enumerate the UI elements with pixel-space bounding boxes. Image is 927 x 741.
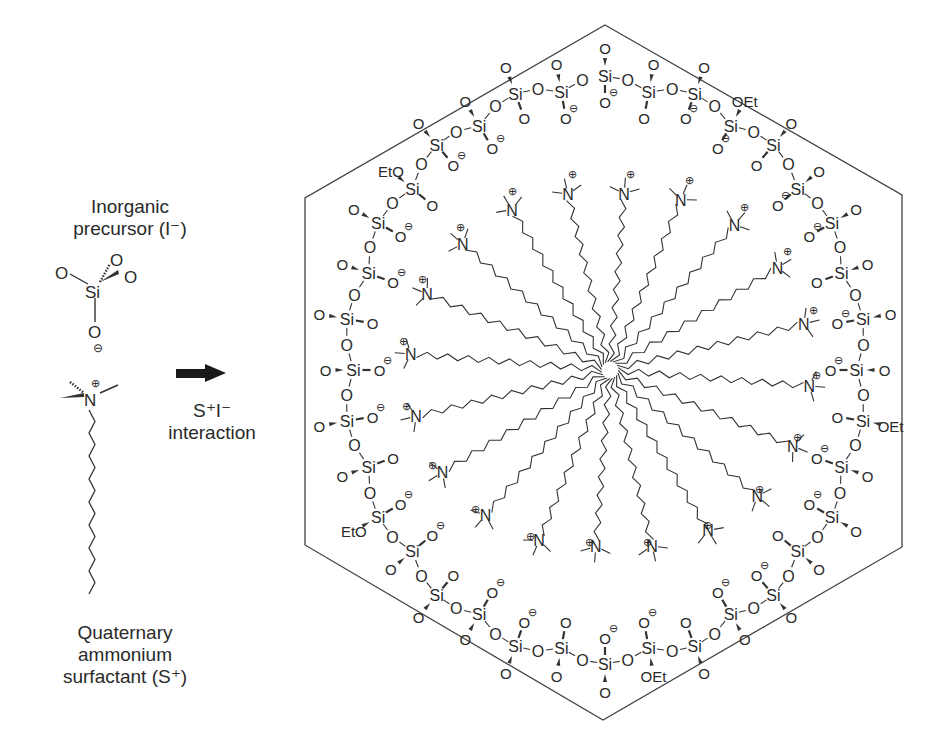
- positive-charge-icon: ⊕: [418, 273, 427, 285]
- terminal-group: O: [813, 561, 825, 578]
- silicon-atom: Si: [766, 587, 780, 604]
- negative-charge-icon: ⊖: [648, 606, 657, 618]
- svg-text:O: O: [124, 268, 137, 287]
- positive-charge-icon: ⊕: [703, 519, 712, 531]
- silicon-atom: Si: [362, 459, 376, 476]
- bridging-oxygen: O: [576, 652, 588, 669]
- surfactant-chain: [617, 375, 708, 524]
- bridging-oxygen: O: [708, 626, 720, 643]
- terminal-oxygen: O: [638, 110, 650, 127]
- surfactant-chain: [613, 227, 728, 362]
- surfactant-chain: [492, 378, 607, 513]
- terminal-group: O: [500, 59, 512, 76]
- ammonium-head: N: [457, 236, 469, 253]
- negative-charge-icon: ⊖: [841, 307, 850, 319]
- terminal-group: O: [599, 40, 611, 57]
- bridging-oxygen: O: [834, 239, 846, 256]
- negative-charge-icon: ⊖: [496, 132, 505, 144]
- bridging-oxygen: O: [532, 643, 544, 660]
- bridging-oxygen: O: [489, 98, 501, 115]
- terminal-group: O: [648, 56, 660, 73]
- positive-charge-icon: ⊕: [568, 168, 577, 180]
- silicon-atom: Si: [642, 84, 656, 101]
- silicon-atom: Si: [362, 265, 376, 282]
- svg-text:Si: Si: [85, 283, 100, 302]
- terminal-oxygen: O: [832, 409, 844, 426]
- terminal-group: O: [698, 665, 710, 682]
- silicon-atom: Si: [791, 543, 805, 560]
- surfactant-chain: [423, 371, 603, 418]
- micelle-diagram: O Si O O O ⊖ N ⊕ N⊕N⊕N⊕N⊕N⊕N⊕N⊕N⊕N⊕N⊕N⊕N…: [0, 0, 927, 741]
- ammonium-head: N: [562, 186, 574, 203]
- terminal-oxygen: O: [367, 315, 379, 332]
- terminal-group: O: [314, 306, 326, 323]
- svg-text:O: O: [110, 251, 123, 270]
- silicon-atom: Si: [825, 215, 839, 232]
- bridging-oxygen: O: [811, 195, 823, 212]
- silicon-atom: Si: [508, 638, 522, 655]
- surfactant-chain: [513, 216, 604, 365]
- terminal-group: OEt: [878, 418, 905, 435]
- terminal-group: O: [850, 523, 862, 540]
- terminal-group: O: [337, 468, 349, 485]
- negative-charge-icon: ⊖: [820, 442, 829, 454]
- bridging-oxygen: O: [666, 643, 678, 660]
- silicon-atom: Si: [598, 656, 612, 673]
- silicon-atom: Si: [687, 638, 701, 655]
- terminal-group: O: [385, 561, 397, 578]
- terminal-group: O: [786, 609, 798, 626]
- bridging-oxygen: O: [782, 568, 794, 585]
- bridging-oxygen: O: [450, 124, 462, 141]
- svg-text:⊕: ⊕: [91, 377, 100, 389]
- positive-charge-icon: ⊕: [626, 168, 635, 180]
- negative-charge-icon: ⊖: [569, 102, 578, 114]
- bridging-oxygen: O: [364, 239, 376, 256]
- surfactant-chain: [618, 368, 803, 388]
- surfactant-chain: [618, 373, 755, 490]
- right-arrow-icon: [176, 364, 226, 382]
- ammonium-head: N: [618, 186, 630, 203]
- terminal-group: O: [879, 362, 891, 379]
- silicon-atom: Si: [834, 265, 848, 282]
- terminal-group: O: [813, 163, 825, 180]
- terminal-group: O: [337, 256, 349, 273]
- terminal-oxygen: O: [680, 614, 692, 631]
- bridging-oxygen: O: [386, 195, 398, 212]
- surfactant-chain: [465, 250, 602, 367]
- surfactant-chain: [608, 199, 626, 361]
- positive-charge-icon: ⊕: [471, 503, 480, 515]
- ammonium-head: N: [405, 346, 417, 363]
- negative-charge-icon: ⊖: [457, 149, 466, 161]
- bridging-oxygen: O: [415, 568, 427, 585]
- negative-charge-icon: ⊖: [834, 354, 843, 366]
- silicon-atom: Si: [834, 459, 848, 476]
- silicon-atom: Si: [791, 181, 805, 198]
- positive-charge-icon: ⊕: [755, 483, 764, 495]
- silicon-atom: Si: [472, 118, 486, 135]
- surfactant-chain: [417, 352, 602, 372]
- bridging-oxygen: O: [666, 81, 678, 98]
- positive-charge-icon: ⊕: [685, 174, 694, 186]
- bridging-oxygen: O: [782, 156, 794, 173]
- silicon-atom: Si: [508, 86, 522, 103]
- bridging-oxygen: O: [415, 156, 427, 173]
- terminal-group: O: [459, 631, 471, 648]
- negative-charge-icon: ⊖: [404, 220, 413, 232]
- positive-charge-icon: ⊕: [402, 400, 411, 412]
- ammonium-head: N: [437, 464, 449, 481]
- bridging-oxygen: O: [748, 600, 760, 617]
- silicon-atom: Si: [472, 606, 486, 623]
- surfactant-chain: [449, 377, 605, 472]
- terminal-group: O: [599, 684, 611, 701]
- bridging-oxygen: O: [621, 72, 633, 89]
- bridging-oxygen: O: [532, 81, 544, 98]
- svg-text:⊖: ⊖: [93, 341, 103, 355]
- bridging-oxygen: O: [450, 600, 462, 617]
- positive-charge-icon: ⊕: [812, 369, 821, 381]
- silicon-atom: Si: [405, 543, 419, 560]
- terminal-oxygen: O: [426, 197, 438, 214]
- negative-charge-icon: ⊖: [609, 86, 618, 98]
- terminal-group: O: [698, 59, 710, 76]
- terminal-group: O: [459, 93, 471, 110]
- terminal-oxygen: O: [560, 614, 572, 631]
